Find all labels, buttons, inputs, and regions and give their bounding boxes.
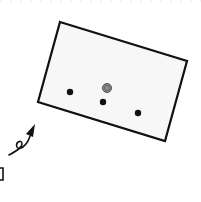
dot <box>135 110 141 116</box>
corner-fragment <box>0 168 3 180</box>
smiley-face-icon <box>103 84 112 93</box>
curly-arrow-icon <box>9 124 35 155</box>
dot <box>67 89 73 95</box>
dot <box>100 99 106 105</box>
tilted-panel <box>38 22 187 141</box>
diagram-canvas <box>0 0 201 202</box>
